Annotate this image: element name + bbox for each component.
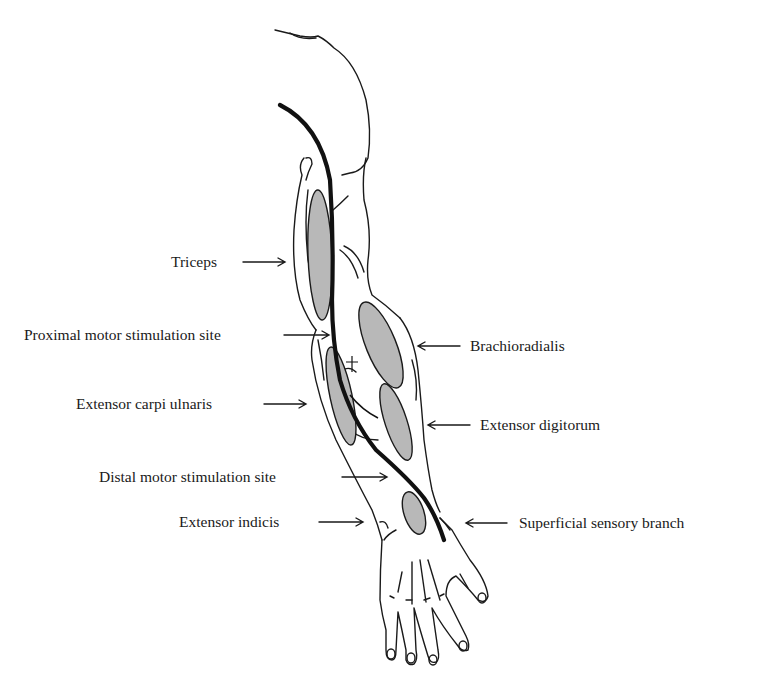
brachioradialis-muscle bbox=[350, 297, 412, 394]
arrow-triceps bbox=[243, 258, 285, 266]
label-distal-motor-stimulation-site: Distal motor stimulation site bbox=[99, 468, 276, 486]
hand-outline bbox=[380, 518, 488, 665]
label-proximal-motor-stimulation-site: Proximal motor stimulation site bbox=[24, 326, 221, 344]
arrow-extensor-carpi-ulnaris bbox=[264, 400, 306, 408]
label-superficial-sensory-branch: Superficial sensory branch bbox=[519, 514, 684, 532]
label-triceps: Triceps bbox=[171, 253, 217, 271]
arrow-proximal-motor bbox=[284, 331, 329, 339]
label-extensor-carpi-ulnaris: Extensor carpi ulnaris bbox=[76, 395, 212, 413]
arrow-extensor-digitorum bbox=[428, 421, 470, 429]
label-brachioradialis: Brachioradialis bbox=[470, 337, 565, 355]
extensor-carpi-ulnaris-muscle bbox=[320, 345, 362, 447]
arrow-distal-motor bbox=[342, 473, 387, 481]
arm-illustration bbox=[0, 0, 757, 693]
arrow-extensor-indicis bbox=[319, 518, 363, 526]
label-extensor-indicis: Extensor indicis bbox=[179, 513, 279, 531]
arm-nerve-diagram: Triceps Proximal motor stimulation site … bbox=[0, 0, 757, 693]
label-extensor-digitorum: Extensor digitorum bbox=[480, 416, 600, 434]
upper-arm-right-outline bbox=[363, 158, 400, 318]
arrow-superficial-sensory bbox=[466, 519, 507, 527]
arrow-brachioradialis bbox=[418, 342, 460, 350]
extensor-indicis-muscle bbox=[398, 489, 431, 537]
